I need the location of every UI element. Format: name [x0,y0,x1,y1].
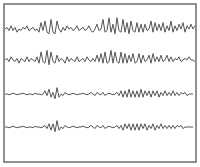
trace-1 [5,18,195,34]
trace-2 [5,50,195,64]
trace-4 [5,121,193,132]
waveform-chart [0,0,200,167]
trace-group [5,18,195,132]
trace-3 [5,88,193,99]
